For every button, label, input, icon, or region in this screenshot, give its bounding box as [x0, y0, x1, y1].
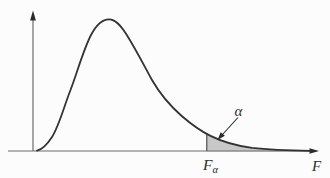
f-distribution-plot: α Fα F	[0, 0, 330, 178]
critical-value-label-base: F	[202, 156, 213, 173]
f-distribution-figure: α Fα F	[0, 0, 330, 178]
alpha-label: α	[235, 103, 244, 119]
critical-value-label-subscript: α	[212, 164, 218, 175]
x-axis-label: F	[311, 158, 322, 174]
